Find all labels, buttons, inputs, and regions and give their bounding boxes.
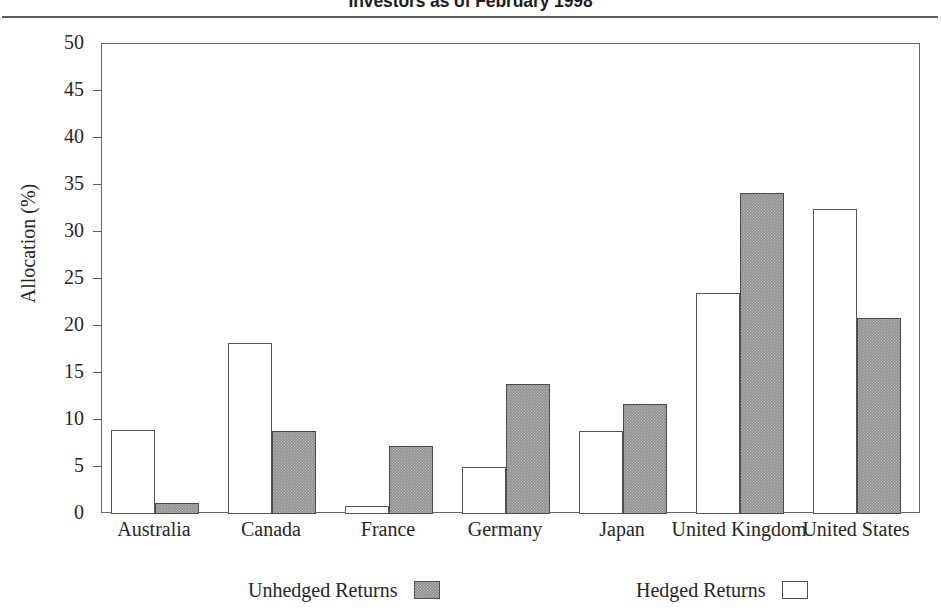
bar-unhedged-germany — [506, 384, 550, 514]
gray-filled-square-swatch — [414, 581, 440, 599]
y-axis-tick — [93, 372, 102, 373]
y-axis-tick-label: 10 — [24, 408, 84, 428]
y-axis-tick-label: 40 — [24, 126, 84, 146]
white-open-square-swatch — [782, 581, 808, 599]
y-axis-tick — [93, 419, 102, 420]
y-axis-tick-label: 0 — [24, 502, 84, 522]
bar-unhedged-canada — [272, 431, 316, 514]
bar-chart: Allocation (%) AustraliaCanadaFranceGerm… — [0, 0, 941, 613]
bar-hedged-united-kingdom — [696, 293, 740, 514]
y-axis-tick — [93, 278, 102, 279]
bar-hedged-japan — [579, 431, 623, 514]
bar-hedged-germany — [462, 467, 506, 514]
y-axis-tick-label: 50 — [24, 32, 84, 52]
y-axis-tick — [93, 231, 102, 232]
y-axis-tick — [93, 90, 102, 91]
y-axis-tick-label: 5 — [24, 455, 84, 475]
bar-hedged-canada — [228, 343, 272, 514]
bar-hedged-france — [345, 506, 389, 514]
legend-item-hedged-returns: Hedged Returns — [636, 575, 808, 605]
y-axis-tick — [93, 184, 102, 185]
bar-unhedged-japan — [623, 404, 667, 514]
y-axis-tick-label: 20 — [24, 314, 84, 334]
legend-label: Hedged Returns — [636, 579, 765, 602]
plot-area — [101, 43, 920, 513]
y-axis-tick — [93, 466, 102, 467]
y-axis-tick-label: 35 — [24, 173, 84, 193]
y-axis-tick — [93, 325, 102, 326]
bar-unhedged-united-states — [857, 318, 901, 514]
legend-item-unhedged-returns: Unhedged Returns — [248, 575, 440, 605]
legend-label: Unhedged Returns — [248, 579, 397, 602]
x-axis-label-united-states: United States — [771, 519, 941, 541]
y-axis-tick — [93, 137, 102, 138]
bar-unhedged-australia — [155, 503, 199, 514]
bar-unhedged-france — [389, 446, 433, 514]
bar-hedged-australia — [111, 430, 155, 514]
bar-hedged-united-states — [813, 209, 857, 515]
bar-unhedged-united-kingdom — [740, 193, 784, 514]
y-axis-tick-label: 45 — [24, 79, 84, 99]
y-axis-tick-label: 30 — [24, 220, 84, 240]
y-axis-tick-label: 15 — [24, 361, 84, 381]
chart-legend: Unhedged ReturnsHedged Returns — [0, 575, 941, 609]
y-axis-tick-label: 25 — [24, 267, 84, 287]
